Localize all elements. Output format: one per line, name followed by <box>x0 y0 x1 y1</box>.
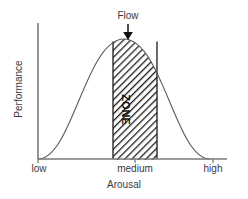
x-axis-title: Arousal <box>0 180 248 190</box>
x-tick-label-medium: medium <box>110 164 160 174</box>
chart-figure: Performance Arousal low medium high Flow… <box>0 0 248 199</box>
flow-zone-label: ZONE <box>120 87 131 133</box>
x-tick-label-low: low <box>22 164 56 174</box>
x-tick-label-high: high <box>196 164 230 174</box>
y-axis-title: Performance <box>14 50 24 128</box>
flow-annotation-label: Flow <box>98 11 158 21</box>
